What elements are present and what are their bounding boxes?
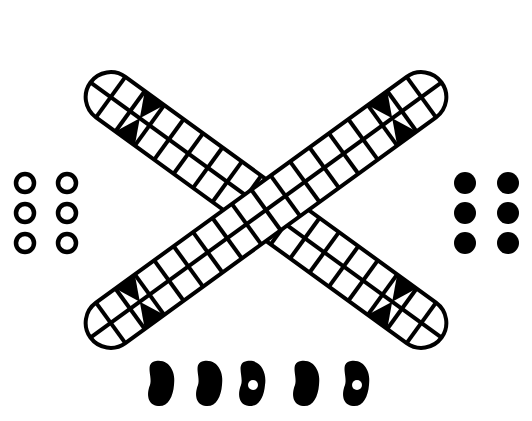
- ring-marker-piece[interactable]: [16, 174, 34, 192]
- solid-marker-piece[interactable]: [497, 232, 519, 254]
- bean-die-blank[interactable]: [148, 361, 174, 406]
- ring-marker-piece[interactable]: [16, 204, 34, 222]
- solid-marker-piece[interactable]: [454, 202, 476, 224]
- ring-marker-piece[interactable]: [16, 234, 34, 252]
- ring-marker-piece[interactable]: [58, 174, 76, 192]
- game-board: [0, 0, 532, 421]
- ring-marker-piece[interactable]: [58, 234, 76, 252]
- solid-marker-piece[interactable]: [454, 232, 476, 254]
- white-marker-group: [16, 174, 76, 252]
- black-marker-group: [454, 172, 519, 254]
- bean-dice-group: [148, 361, 369, 406]
- bean-die-marked[interactable]: [343, 361, 369, 406]
- solid-marker-piece[interactable]: [497, 202, 519, 224]
- bean-die-marked[interactable]: [239, 361, 265, 406]
- solid-marker-piece[interactable]: [497, 172, 519, 194]
- ring-marker-piece[interactable]: [58, 204, 76, 222]
- board-strips: [76, 62, 457, 358]
- bean-mark-icon: [248, 380, 258, 390]
- bean-die-blank[interactable]: [293, 361, 319, 406]
- bean-die-blank[interactable]: [196, 361, 222, 406]
- bean-mark-icon: [352, 380, 362, 390]
- solid-marker-piece[interactable]: [454, 172, 476, 194]
